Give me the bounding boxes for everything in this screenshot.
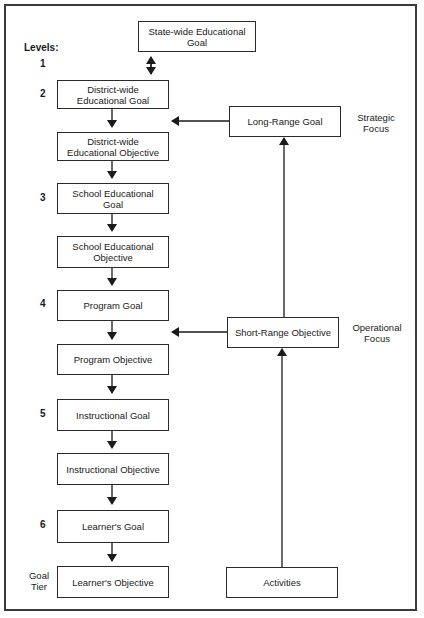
level-5-label: 5 [40,408,46,419]
long-range-goal-box: Long-Range Goal [229,106,341,137]
district-objective-box: District-wide Educational Objective [57,132,169,161]
district-goal-box: District-wide Educational Goal [57,80,169,109]
activities-box: Activities [226,567,338,598]
instructional-objective-box: Instructional Objective [57,453,169,485]
goal-tier-label: Goal Tier [26,570,52,592]
school-objective-box: School Educational Objective [57,236,169,268]
level-4-label: 4 [40,298,46,309]
short-range-objective-box: Short-Range Objective [227,317,339,348]
level-1-label: 1 [40,58,46,69]
program-goal-box: Program Goal [57,290,169,321]
program-objective-box: Program Objective [57,344,169,375]
strategic-focus-label: Strategic Focus [352,112,400,134]
instructional-goal-box: Instructional Goal [57,399,169,431]
levels-heading: Levels: [24,42,58,53]
level-6-label: 6 [40,519,46,530]
level-2-label: 2 [40,88,46,99]
level-3-label: 3 [40,192,46,203]
learners-goal-box: Learner's Goal [57,510,169,543]
learners-objective-box: Learner's Objective [57,566,169,598]
school-goal-box: School Educational Goal [57,183,169,214]
state-wide-goal-box: State-wide Educational Goal [138,21,256,52]
operational-focus-label: Operational Focus [349,322,405,344]
